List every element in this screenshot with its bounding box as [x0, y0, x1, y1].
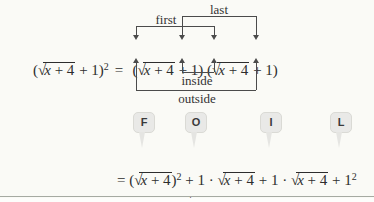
first-bracket-right-drop [214, 26, 215, 35]
outside-bracket-right-rise [256, 63, 257, 90]
label-outside: outside [161, 92, 233, 105]
radicand-rest: + 4 [304, 172, 327, 188]
last-bracket-line [182, 16, 256, 17]
badge-pointer-icon [266, 132, 272, 148]
foil-letter-o: O [186, 113, 206, 132]
foil-letter-f: F [134, 113, 154, 132]
badge-pointer-icon [139, 132, 145, 148]
inside-bracket-left-rise [182, 63, 183, 72]
first-bracket-line [136, 26, 214, 27]
radicand-rest: + 4 [51, 62, 74, 78]
label-last: last [199, 3, 239, 16]
plus-one-close: + 1) [75, 62, 103, 78]
plus-one-dot: + 1 · [255, 172, 291, 188]
radicand-variable: x [44, 62, 51, 78]
radicand-rest: + 4 [225, 62, 248, 78]
foil-badge-l: L [330, 112, 352, 133]
exponent: 2 [104, 61, 109, 72]
badge-pointer-icon [191, 132, 197, 148]
radicand: x + 4 [296, 172, 328, 187]
label-first: first [146, 13, 186, 26]
foil-badge-o: O [185, 112, 207, 133]
foil-badge-f: F [133, 112, 155, 133]
first-bracket-left-drop [136, 26, 137, 35]
foil-method-diagram: first last (√x + 4 + 1)2= (√x + 4 + 1) (… [0, 0, 374, 202]
exponent: 2 [352, 171, 357, 182]
badge-pointer-icon [336, 132, 342, 148]
below-rule-strip [0, 198, 374, 202]
equation-lhs: (√x + 4 + 1)2= [18, 40, 129, 100]
inside-bracket-right-rise [214, 63, 215, 72]
foil-badge-i: I [260, 112, 282, 133]
bottom-rule [0, 196, 374, 197]
outside-bracket-left-rise [136, 63, 137, 90]
radicand: x + 4 [43, 62, 75, 77]
foil-letter-i: I [261, 113, 281, 132]
last-bracket-right-drop [256, 16, 257, 35]
last-bracket-left-drop [182, 16, 183, 35]
radicand-variable: x [297, 172, 304, 188]
label-inside: inside [167, 74, 227, 87]
plus-one: + 1 [328, 172, 351, 188]
plus-one-close: + 1) [249, 62, 277, 78]
foil-letter-l: L [331, 113, 351, 132]
